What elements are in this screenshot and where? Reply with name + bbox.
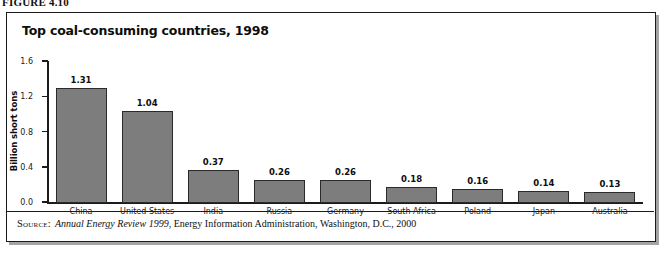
- bar-group: 0.16Poland: [452, 58, 503, 203]
- bar: [56, 88, 107, 203]
- chart-title: Top coal-consuming countries, 1998: [22, 23, 269, 38]
- bar-value-label: 0.14: [518, 178, 569, 188]
- y-tick-label: 1.2: [20, 92, 33, 101]
- bar: [254, 180, 305, 203]
- bar-series: 1.31China1.04United States0.37India0.26R…: [48, 58, 643, 203]
- bar-group: 0.18South Africa: [386, 58, 437, 203]
- bar-group: 1.31China: [56, 58, 107, 203]
- source-rest: , Energy Information Administration, Was…: [169, 218, 417, 229]
- bar: [320, 180, 371, 203]
- y-tick-label: 0.0: [20, 198, 33, 207]
- bar-group: 0.26Germany: [320, 58, 371, 203]
- bar-group: 1.04United States: [122, 58, 173, 203]
- y-axis-title: Billion short tons: [9, 90, 19, 170]
- bar-value-label: 0.26: [254, 167, 305, 177]
- y-tick-label: 1.6: [20, 57, 33, 66]
- bar-value-label: 1.04: [122, 98, 173, 108]
- bar-value-label: 0.13: [584, 179, 635, 189]
- bar-value-label: 1.31: [56, 75, 107, 85]
- source-publication-title: Annual Energy Review 1999: [55, 218, 169, 229]
- bar: [452, 189, 503, 203]
- plot-area: Billion short tons 0.00.40.81.21.6 1.31C…: [47, 58, 643, 203]
- bar: [518, 191, 569, 203]
- bar-value-label: 0.16: [452, 176, 503, 186]
- bar-group: 0.13Australia: [584, 58, 635, 203]
- bar-group: 0.37India: [188, 58, 239, 203]
- bar: [122, 111, 173, 203]
- bar-value-label: 0.18: [386, 174, 437, 184]
- figure-root: FIGURE 4.10 Top coal-consuming countries…: [0, 0, 670, 253]
- bar: [386, 187, 437, 203]
- bar: [188, 170, 239, 203]
- figure-frame: Top coal-consuming countries, 1998 Billi…: [6, 12, 656, 242]
- figure-number-label: FIGURE 4.10: [2, 0, 69, 8]
- bar-value-label: 0.26: [320, 167, 371, 177]
- source-note: Source:Annual Energy Review 1999, Energy…: [17, 218, 416, 229]
- bar-value-label: 0.37: [188, 157, 239, 167]
- y-tick-label: 0.8: [20, 127, 33, 136]
- source-divider: [7, 211, 654, 212]
- bar: [584, 192, 635, 203]
- bar-group: 0.14Japan: [518, 58, 569, 203]
- y-tick-label: 0.4: [20, 162, 33, 171]
- bar-group: 0.26Russia: [254, 58, 305, 203]
- source-kicker: Source:: [17, 218, 51, 229]
